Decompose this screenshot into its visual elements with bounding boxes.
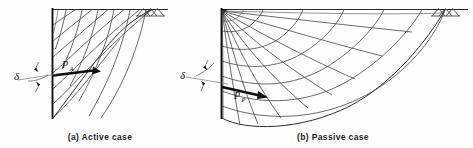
panel-passive-case: P P δ (180, 8, 468, 127)
caption-passive-case: (b) Passive case (258, 132, 408, 142)
force-label-passive: P (233, 90, 240, 101)
figure-page: P A δ (0, 0, 473, 148)
delta-leader-line-active (18, 74, 60, 81)
slip-line-family-transverse-passive (222, 10, 445, 117)
delta-label-active: δ (14, 70, 20, 82)
caption-active-case: (a) Active case (30, 132, 170, 142)
delta-label-passive: δ (180, 69, 186, 81)
slip-line-field-figure: P A δ (0, 0, 473, 148)
force-label-sub-active: A (69, 65, 74, 72)
force-label-active: P (61, 59, 68, 70)
caption-prefix-a: (a) (68, 132, 79, 142)
caption-text-a: Active case (82, 132, 133, 142)
panel-active-case: P A δ (14, 8, 168, 119)
delta-angle-arrows-passive (196, 60, 214, 91)
radial-fan-passive (222, 11, 444, 125)
force-label-sub-passive: P (241, 96, 246, 103)
caption-text-b: Passive case (312, 132, 369, 142)
caption-prefix-b: (b) (297, 132, 309, 142)
force-arrow-active (53, 67, 101, 76)
